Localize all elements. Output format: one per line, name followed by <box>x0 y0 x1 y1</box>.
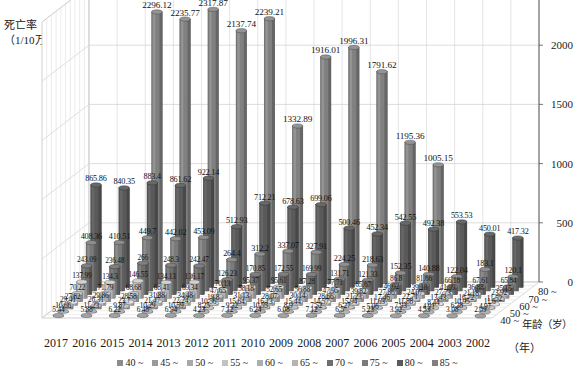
legend-label: 40 ~ <box>125 357 143 368</box>
legend-item[interactable]: 85 ~ <box>432 357 458 368</box>
depth-axis-tick-label: 80 ~ <box>538 286 557 297</box>
bar-value-label: 31.88 <box>149 291 165 300</box>
legend-label: 85 ~ <box>440 357 458 368</box>
legend-item[interactable]: 55 ~ <box>222 357 248 368</box>
legend-swatch-icon <box>187 360 193 366</box>
bar-value-label: 840.35 <box>113 177 134 186</box>
bar-3d <box>475 314 486 318</box>
legend-label: 55 ~ <box>230 357 248 368</box>
bar-3d <box>334 313 345 317</box>
bar-value-label: 712.21 <box>254 193 275 202</box>
bar-value-label: 337.07 <box>278 241 299 250</box>
bar-value-label: 1996.31 <box>339 36 368 46</box>
x-axis-tick-label: 2016 <box>72 336 96 351</box>
x-axis-tick-label: 2002 <box>466 336 490 351</box>
bar-value-label: 68.41 <box>154 283 170 292</box>
bar-3d <box>53 313 64 317</box>
y-axis-tick: 1500 <box>551 98 573 110</box>
bar-value-label: 453.09 <box>193 227 214 236</box>
bar-3d <box>278 313 289 317</box>
y-axis-tick: 2000 <box>551 39 573 51</box>
bar-value-label: 67.61 <box>473 276 489 285</box>
bar-value-label: 1332.89 <box>283 114 312 124</box>
legend-item[interactable]: 45 ~ <box>152 357 178 368</box>
bar-value-label: 2137.74 <box>227 19 256 29</box>
bar-value-label: 52.65 <box>266 285 282 294</box>
legend-item[interactable]: 50 ~ <box>187 357 213 368</box>
legend-item[interactable]: 65 ~ <box>292 357 318 368</box>
bar-value-label: 27.82 <box>65 292 81 301</box>
bar-value-label: 678.63 <box>282 197 303 206</box>
legend-item[interactable]: 40 ~ <box>117 357 143 368</box>
bar-value-label: 248.3 <box>163 255 179 264</box>
bar-value-label: 417.32 <box>507 227 528 236</box>
bar-value-label: 170.85 <box>246 264 265 273</box>
bar-value-label: 120.1 <box>504 266 521 275</box>
legend-item[interactable]: 70 ~ <box>327 357 353 368</box>
legend-swatch-icon <box>397 360 403 366</box>
x-axis-tick-label: 2007 <box>325 336 349 351</box>
x-axis-tick-label: 2008 <box>297 336 321 351</box>
bar-value-label: 81.66 <box>416 274 432 283</box>
chart-legend: 40 ~45 ~50 ~55 ~60 ~65 ~70 ~75 ~80 ~85 ~ <box>0 357 575 368</box>
x-axis-tick-label: 2006 <box>353 336 377 351</box>
bar-value-label: 58.18 <box>238 284 254 293</box>
bar-value-label: 264.4 <box>223 249 240 258</box>
legend-swatch-icon <box>117 360 123 366</box>
legend-item[interactable]: 75 ~ <box>362 357 388 368</box>
bar-3d <box>419 314 430 318</box>
legend-label: 45 ~ <box>160 357 178 368</box>
legend-label: 70 ~ <box>335 357 353 368</box>
x-axis-tick-label: 2009 <box>269 336 293 351</box>
bar-value-label: 512.93 <box>226 216 247 225</box>
bar-value-label: 34.48 <box>177 291 193 300</box>
x-axis-tick-label: 2017 <box>44 336 68 351</box>
bar-value-label: 69.34 <box>182 283 198 292</box>
bar-value-label: 126.23 <box>218 269 237 278</box>
legend-swatch-icon <box>432 360 438 366</box>
chart-canvas: 死亡率 （1/10万） 年龄（岁） （年） 5.445.886.226.486.… <box>0 0 575 379</box>
bar-value-label: 883.4 <box>144 172 161 181</box>
bar-value-label: 134.13 <box>157 272 176 281</box>
legend-label: 60 ~ <box>265 357 283 368</box>
bar-value-label: 172.55 <box>274 264 293 273</box>
bar-value-label: 242.47 <box>190 255 209 264</box>
bar-value-label: 442.02 <box>165 228 186 237</box>
bar-value-label: 861.62 <box>170 175 191 184</box>
legend-swatch-icon <box>222 360 228 366</box>
bar-value-label: 137.99 <box>72 271 91 280</box>
bar-3d <box>194 314 205 318</box>
bar-value-label: 71.79 <box>98 283 114 292</box>
bar-value-label: 121.33 <box>358 270 377 279</box>
bar-value-label: 1916.01 <box>311 45 340 55</box>
x-axis-tick-label: 2003 <box>438 336 462 351</box>
bar-value-label: 146.55 <box>129 270 148 279</box>
x-axis-tick-label: 2011 <box>213 336 237 351</box>
bar-value-label: 2239.21 <box>255 7 284 17</box>
bar-value-label: 500.46 <box>338 218 359 227</box>
bar-3d <box>250 313 261 317</box>
bar-value-label: 29.86 <box>93 291 109 300</box>
bar-value-label: 140.88 <box>418 264 439 273</box>
legend-label: 75 ~ <box>370 357 388 368</box>
bar-value-label: 68.68 <box>126 283 142 292</box>
bar-3d <box>391 314 402 318</box>
bar-value-label: 70.22 <box>69 283 85 292</box>
bar-value-label: 1195.36 <box>396 131 425 141</box>
bar-value-label: 87.28 <box>299 277 315 286</box>
bar-value-label: 327.91 <box>306 242 327 251</box>
bar-3d <box>306 313 317 317</box>
bar-value-label: 152.35 <box>390 262 411 271</box>
bar-value-label: 2317.87 <box>199 0 228 8</box>
bar-value-label: 183.1 <box>476 259 493 268</box>
bar-3d <box>109 313 120 317</box>
x-axis-tick-label: 2014 <box>128 336 152 351</box>
bar-value-label: 46.02 <box>383 282 399 291</box>
bar-value-label: 542.55 <box>395 213 416 222</box>
bar-3d <box>363 313 374 317</box>
bar-value-label: 243.09 <box>77 255 96 264</box>
legend-item[interactable]: 60 ~ <box>257 357 283 368</box>
bar-3d <box>447 314 458 318</box>
legend-item[interactable]: 80 ~ <box>397 357 423 368</box>
bar-3d <box>222 313 233 317</box>
